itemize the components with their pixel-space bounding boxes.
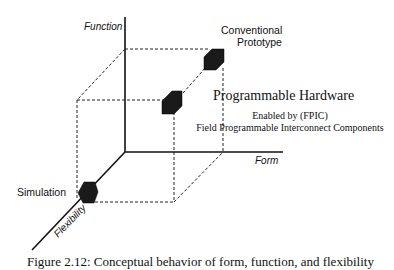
conventional-label-line1: Conventional: [221, 24, 282, 36]
fpic-expansion-text: Field Programmable Interconnect Componen…: [186, 122, 394, 134]
flexibility-axis-label: Flexibility: [52, 201, 89, 239]
simulation-label: Simulation: [17, 186, 66, 198]
conventional-label-line2: Prototype: [221, 36, 282, 48]
function-axis-label: Function: [84, 21, 122, 32]
figure-caption: Figure 2.12: Conceptual behavior of form…: [27, 254, 374, 270]
conventional-prototype-label: Conventional Prototype: [221, 24, 282, 48]
form-axis-label: Form: [255, 155, 278, 166]
simulation-cube-icon: [78, 182, 98, 203]
programmable-hardware-cube-icon: [162, 91, 182, 114]
programmable-hardware-subtitle: Enabled by (FPIC) Field Programmable Int…: [186, 110, 394, 134]
fpic-enabled-text: Enabled by (FPIC): [186, 110, 394, 122]
conventional-prototype-cube-icon: [204, 49, 224, 70]
programmable-hardware-title: Programmable Hardware: [213, 88, 354, 104]
flexibility-axis: [32, 152, 125, 250]
